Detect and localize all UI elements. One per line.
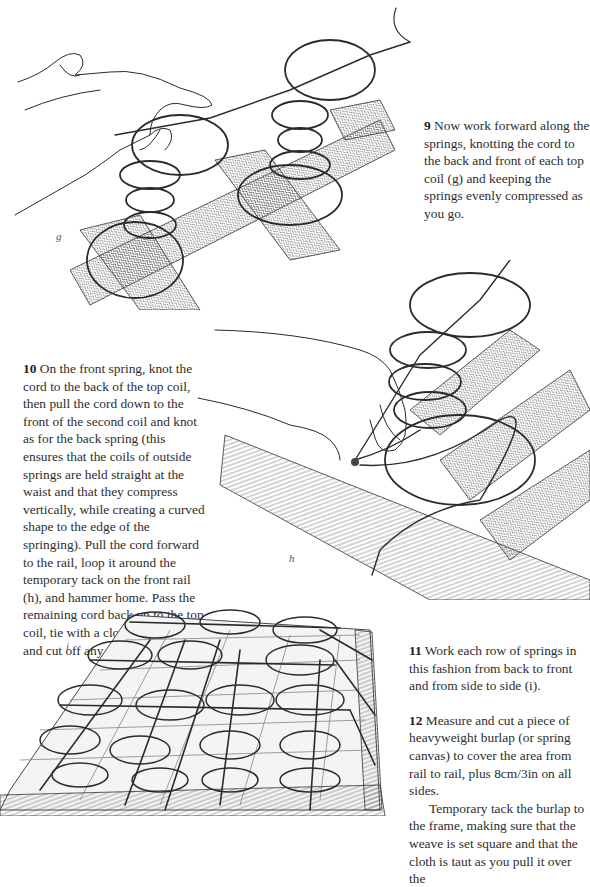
step-12-continuation: Temporary tack the burlap to the frame, …: [409, 800, 590, 887]
step-9: 9 Now work forward along the springs, kn…: [424, 117, 590, 223]
step-text: Work each row of springs in this fashion…: [409, 643, 577, 693]
step-text: Now work forward along the springs, knot…: [424, 118, 590, 221]
step-12: 12 Measure and cut a piece of heavyweigh…: [409, 712, 590, 800]
illustration-h: [180, 260, 590, 600]
step-number: 10: [23, 361, 36, 376]
step-11-12: 11 Work each row of springs in this fash…: [409, 642, 590, 887]
step-number: 12: [409, 713, 422, 728]
figure-label-g: g: [56, 230, 62, 242]
step-11: 11 Work each row of springs in this fash…: [409, 642, 590, 695]
step-number: 11: [409, 643, 422, 658]
step-number: 9: [424, 118, 431, 133]
figure-label-i: i: [66, 640, 69, 652]
step-text: Measure and cut a piece of heavyweight b…: [409, 713, 572, 798]
figure-label-h: h: [289, 552, 295, 564]
illustration-i: [0, 600, 390, 816]
